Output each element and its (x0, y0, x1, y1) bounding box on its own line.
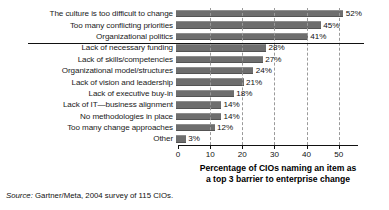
bar-category-label: Lack of executive buy-in (0, 89, 176, 98)
bar[interactable] (176, 67, 253, 74)
bar-track: 27% (176, 54, 389, 65)
bar[interactable] (176, 124, 215, 131)
bar[interactable] (176, 56, 263, 63)
group-separator-line (28, 43, 364, 44)
bar-track: 21% (176, 76, 389, 87)
x-axis-line (178, 145, 358, 146)
bar-category-label: Organizational model/structures (0, 66, 176, 75)
x-tick-label-0: 0 (176, 150, 181, 159)
bar-track: 3% (176, 133, 389, 144)
bar-track: 24% (176, 65, 389, 76)
bar-row: Other3% (0, 133, 389, 144)
bar-track: 14% (176, 99, 389, 110)
bar-row: Too many conflicting priorities45% (0, 19, 389, 30)
bar-track: 52% (176, 8, 389, 19)
x-tick-label-20: 20 (238, 150, 247, 159)
bar-row: Lack of skills/competencies27% (0, 54, 389, 65)
bar-row: Lack of IT—business alignment14% (0, 99, 389, 110)
x-tick-50 (339, 145, 340, 149)
bar[interactable] (176, 44, 266, 51)
bar-category-label: Too many conflicting priorities (0, 21, 176, 30)
bar-category-label: Lack of IT—business alignment (0, 100, 176, 109)
bar-value-label: 52% (346, 9, 362, 18)
bar-category-label: Lack of necessary funding (0, 43, 176, 52)
bar[interactable] (176, 101, 221, 108)
bar-value-label: 27% (265, 55, 281, 64)
bar-row: No methodologies in place14% (0, 111, 389, 122)
x-axis-title: Percentage of CIOs naming an item asa to… (178, 163, 378, 185)
x-tick-label-10: 10 (206, 150, 215, 159)
x-tick-label-30: 30 (270, 150, 279, 159)
x-axis-title-line-2: a top 3 barrier to enterprise change (178, 174, 378, 185)
bar[interactable] (176, 113, 221, 120)
bar-track: 45% (176, 19, 389, 30)
x-axis-title-line-1: Percentage of CIOs naming an item as (178, 163, 378, 174)
bar-category-label: Other (0, 134, 176, 143)
bar-value-label: 24% (256, 66, 272, 75)
bar-category-label: No methodologies in place (0, 112, 176, 121)
bar-category-label: Organizational politics (0, 32, 176, 41)
bar-track: 41% (176, 31, 389, 42)
x-tick-label-50: 50 (334, 150, 343, 159)
bar[interactable] (176, 33, 308, 40)
bar-value-label: 45% (323, 21, 339, 30)
chart-bar-rows: The culture is too difficult to change52… (0, 8, 389, 145)
bar[interactable] (176, 10, 343, 17)
bar-row: Organizational politics41% (0, 31, 389, 42)
bar-value-label: 3% (188, 134, 200, 143)
x-tick-20 (242, 145, 243, 149)
bar-value-label: 14% (224, 112, 240, 121)
bar-category-label: Lack of vision and leadership (0, 78, 176, 87)
bar-track: 18% (176, 88, 389, 99)
bar-chart-figure: The culture is too difficult to change52… (0, 0, 389, 210)
bar-row: The culture is too difficult to change52… (0, 8, 389, 19)
bar-value-label: 41% (310, 32, 326, 41)
bar[interactable] (176, 90, 234, 97)
bar-row: Too many change approaches12% (0, 122, 389, 133)
bar-track: 14% (176, 111, 389, 122)
bar[interactable] (176, 135, 186, 142)
bar-value-label: 14% (224, 100, 240, 109)
bar-value-label: 12% (217, 123, 233, 132)
bar-value-label: 28% (269, 43, 285, 52)
bar[interactable] (176, 78, 244, 85)
bar-category-label: Lack of skills/competencies (0, 55, 176, 64)
bar-category-label: The culture is too difficult to change (0, 9, 176, 18)
x-tick-10 (210, 145, 211, 149)
x-tick-0 (178, 145, 179, 149)
x-tick-label-40: 40 (302, 150, 311, 159)
bar-row: Lack of executive buy-in18% (0, 88, 389, 99)
source-note: Source: Gartner/Meta, 2004 survey of 115… (6, 191, 173, 201)
bar-row: Organizational model/structures24% (0, 65, 389, 76)
bar-value-label: 18% (236, 89, 252, 98)
bar-row: Lack of vision and leadership21% (0, 76, 389, 87)
bar-category-label: Too many change approaches (0, 123, 176, 132)
source-text: Gartner/Meta, 2004 survey of 115 CIOs. (33, 191, 173, 200)
x-tick-30 (274, 145, 275, 149)
bar[interactable] (176, 21, 321, 28)
bar-track: 12% (176, 122, 389, 133)
x-tick-40 (307, 145, 308, 149)
bar-value-label: 21% (246, 78, 262, 87)
source-keyword: Source: (6, 191, 33, 200)
